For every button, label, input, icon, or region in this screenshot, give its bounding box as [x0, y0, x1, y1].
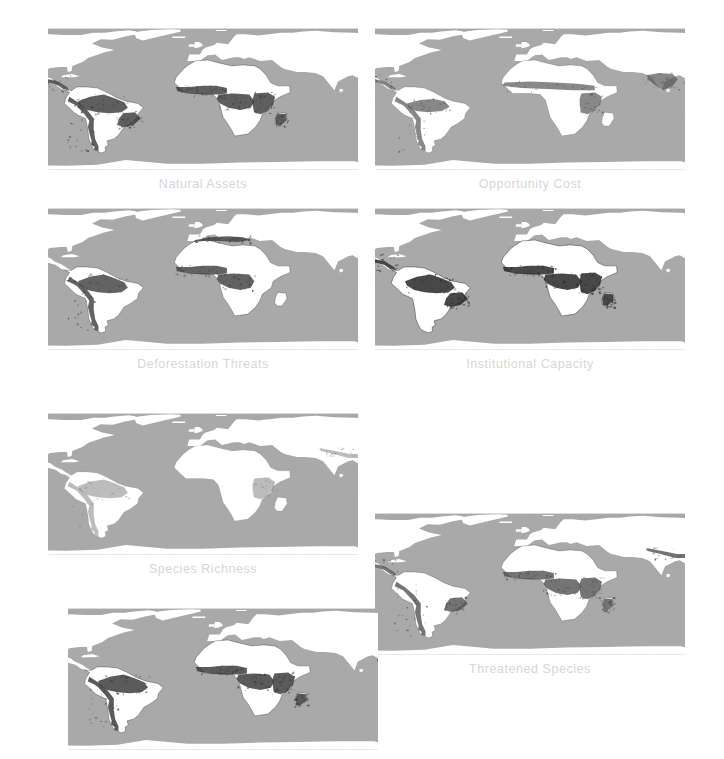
overlay-speckle	[80, 327, 81, 328]
map-panel-deforestation-threats[interactable]: Deforestation Threats	[48, 208, 358, 371]
overlay-speckle	[607, 298, 608, 299]
overlay-speckle	[103, 104, 104, 106]
overlay-speckle	[85, 150, 87, 151]
overlay-speckle	[222, 665, 223, 667]
overlay-speckle	[592, 581, 594, 583]
overlay-speckle	[139, 118, 140, 120]
landmass-iceland	[499, 217, 512, 218]
world-map-panel-grid: Natural Assets Opportunity Cost Deforest…	[0, 0, 724, 759]
overlay-speckle	[74, 318, 76, 319]
overlay-speckle	[241, 669, 243, 670]
overlay-speckle	[111, 278, 112, 279]
map-panel-opportunity-cost[interactable]: Opportunity Cost	[375, 28, 685, 191]
overlay-speckle	[445, 110, 446, 112]
overlay-speckle	[414, 279, 415, 281]
overlay-speckle	[401, 152, 402, 153]
overlay-speckle	[614, 603, 616, 604]
overlay-speckle	[107, 695, 109, 696]
overlay-speckle	[87, 287, 88, 289]
overlay-speckle	[125, 677, 126, 678]
overlay-speckle	[241, 242, 243, 244]
map-caption: Opportunity Cost	[375, 177, 685, 191]
map-panel-natural-assets[interactable]: Natural Assets	[48, 28, 358, 191]
overlay-speckle	[255, 93, 257, 94]
overlay-speckle	[68, 495, 69, 497]
overlay-speckle	[281, 120, 282, 121]
overlay-speckle	[452, 298, 453, 300]
overlay-speckle	[511, 85, 513, 87]
overlay-speckle	[568, 587, 570, 588]
overlay-speckle	[213, 237, 215, 238]
overlay-speckle	[254, 275, 256, 277]
overlay-speckle	[68, 318, 69, 320]
overlay-speckle	[614, 302, 616, 304]
map-panel-threatened-species[interactable]: Threatened Species	[375, 513, 685, 676]
overlay-speckle	[459, 297, 461, 299]
overlay-speckle	[248, 286, 249, 287]
overlay-speckle	[250, 235, 251, 237]
overlay-speckle	[420, 289, 421, 290]
overlay-speckle	[656, 547, 658, 548]
overlay-speckle	[82, 293, 84, 295]
overlay-speckle	[468, 305, 470, 306]
overlay-speckle	[416, 136, 418, 138]
overlay-speckle	[226, 238, 227, 239]
overlay-speckle	[446, 109, 448, 110]
overlay-speckle	[591, 289, 593, 291]
overlay-speckle	[581, 290, 583, 291]
overlay-speckle	[216, 237, 217, 238]
overlay-speckle	[427, 276, 428, 277]
overlay-speckle	[598, 109, 600, 111]
map-panel-institutional-capacity[interactable]: Institutional Capacity	[375, 208, 685, 371]
overlay-speckle	[423, 128, 425, 129]
overlay-speckle	[77, 140, 78, 142]
overlay-speckle	[607, 303, 609, 304]
overlay-speckle	[223, 281, 224, 283]
landmass-ireland	[189, 429, 195, 431]
overlay-speckle	[672, 557, 674, 558]
overlay-speckle	[582, 113, 583, 115]
overlay-speckle	[48, 83, 49, 84]
overlay-speckle	[521, 580, 522, 582]
overlay-speckle	[559, 578, 560, 580]
overlay-speckle	[505, 577, 507, 578]
overlay-speckle	[507, 91, 508, 92]
overlay-speckle	[582, 292, 583, 293]
overlay-speckle	[533, 275, 535, 276]
overlay-speckle	[235, 98, 237, 99]
overlay-speckle	[546, 286, 547, 288]
overlay-speckle	[229, 666, 230, 668]
overlay-speckle	[232, 671, 234, 673]
overlay-speckle	[453, 598, 455, 600]
overlay-speckle	[231, 279, 232, 281]
overlay-speckle	[414, 286, 415, 288]
overlay-speckle	[452, 279, 453, 281]
map-panel-species-richness[interactable]: Species Richness	[48, 413, 358, 576]
overlay-speckle	[77, 152, 78, 153]
overlay-speckle	[105, 721, 107, 722]
overlay-speckle	[597, 279, 598, 280]
overlay-speckle	[595, 87, 597, 88]
overlay-speckle	[90, 296, 91, 297]
overlay-speckle	[590, 290, 591, 291]
overlay-speckle	[121, 676, 123, 677]
map-panel-unlabeled[interactable]	[68, 608, 378, 750]
overlay-speckle	[423, 121, 425, 122]
overlay-speckle	[574, 593, 575, 594]
overlay-speckle	[672, 87, 674, 88]
overlay-speckle	[376, 270, 377, 271]
overlay-speckle	[590, 108, 592, 109]
landmass-iceland	[499, 522, 512, 523]
overlay-speckle	[238, 278, 240, 280]
overlay-speckle	[646, 549, 647, 551]
overlay-speckle	[301, 696, 302, 697]
overlay-speckle	[536, 574, 538, 575]
overlay-speckle	[255, 113, 257, 114]
overlay-speckle	[463, 610, 464, 611]
overlay-speckle	[54, 90, 55, 92]
overlay-speckle	[413, 104, 414, 105]
overlay-speckle	[426, 606, 428, 608]
overlay-speckle	[564, 87, 566, 88]
overlay-speckle	[420, 102, 421, 104]
overlay-speckle	[395, 265, 397, 266]
